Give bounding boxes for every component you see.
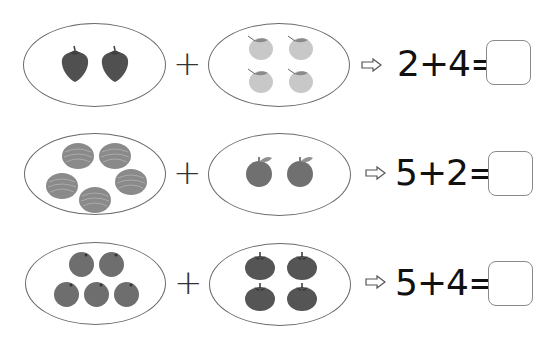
melon-icon: [45, 172, 79, 200]
tomato-icon: [286, 251, 318, 281]
orange-icon: [68, 251, 95, 278]
plus-sign: +: [174, 265, 203, 299]
orange-icon: [113, 281, 140, 308]
arrow-right-icon: [365, 275, 387, 289]
tomato-icon: [286, 282, 318, 312]
melon-icon: [78, 186, 112, 214]
equation-text: 5+4=: [395, 265, 497, 301]
plus-sign: +: [173, 155, 202, 189]
apple-icon: [243, 154, 275, 188]
apple-icon: [284, 154, 316, 188]
melon-icon: [61, 142, 95, 170]
orange-icon: [83, 281, 110, 308]
left-group-oranges: [25, 242, 166, 325]
melon-icon: [98, 142, 132, 170]
left-group-melons: [24, 133, 166, 215]
orange-icon: [98, 251, 125, 278]
tomato-icon: [244, 251, 276, 281]
right-group-apples: [208, 133, 351, 216]
melon-icon: [114, 168, 148, 196]
right-group-tomatoes: [209, 243, 351, 326]
tomato-icon: [244, 282, 276, 312]
orange-icon: [53, 281, 80, 308]
answer-box[interactable]: [488, 151, 533, 196]
equation-text: 5+2=: [395, 155, 497, 191]
problem-row-3: + 5+4=: [0, 0, 552, 110]
arrow-right-icon: [365, 166, 387, 180]
answer-box[interactable]: [488, 261, 533, 306]
